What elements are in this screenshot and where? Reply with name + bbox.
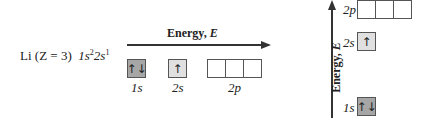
orbital-box-1s: ↑↓	[127, 59, 146, 78]
orbital-box-2p-3	[243, 59, 262, 78]
vertical-label-2s: 2s	[343, 35, 355, 51]
config-term-2s: 2s	[94, 48, 106, 63]
electron-configuration: Li (Z = 3) 1s22s1	[20, 48, 109, 64]
horizontal-energy-arrow-icon	[127, 44, 269, 46]
config-term-1s: 1s	[78, 48, 90, 63]
energy-var: E	[329, 42, 343, 50]
vertical-box-2s: ↑	[357, 32, 376, 51]
vertical-label-2p: 2p	[343, 2, 356, 18]
energy-text: Energy,	[167, 26, 207, 40]
orbital-box-2p-2	[225, 59, 244, 78]
config-sup-2s: 1	[105, 48, 109, 57]
vertical-box-1s: ↑↓	[357, 97, 376, 116]
vertical-energy-label: Energy, E	[329, 38, 344, 98]
energy-text: Energy,	[329, 53, 343, 93]
orbital-label-2p: 2p	[228, 80, 241, 96]
energy-var: E	[210, 26, 218, 40]
vertical-box-2p-2	[375, 0, 394, 19]
orbital-box-2p-1	[207, 59, 226, 78]
orbital-label-1s: 1s	[131, 80, 143, 96]
vertical-label-1s: 1s	[343, 100, 355, 116]
vertical-box-2p-1	[357, 0, 376, 19]
vertical-box-2p-3	[393, 0, 412, 19]
orbital-label-2s: 2s	[172, 80, 184, 96]
atomic-number: (Z = 3)	[35, 48, 72, 63]
orbital-box-2s: ↑	[168, 59, 187, 78]
element-symbol: Li	[20, 48, 32, 63]
horizontal-energy-label: Energy, E	[167, 26, 218, 41]
